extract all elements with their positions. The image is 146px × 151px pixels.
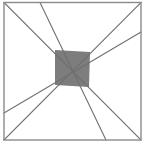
line-top-edge-to-bottom-edge (40, 3, 106, 141)
shaded-quadrilateral (55, 50, 90, 87)
geometry-diagram (0, 0, 146, 151)
figure-container (0, 0, 146, 151)
line-left-edge-to-right-edge (4, 32, 141, 113)
